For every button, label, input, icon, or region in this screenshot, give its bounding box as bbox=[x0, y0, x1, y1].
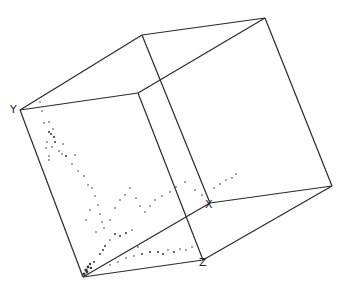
edge-z-backright bbox=[203, 186, 332, 260]
axis-label-y: Y bbox=[9, 103, 17, 116]
edge-backtopleft-x bbox=[142, 35, 210, 203]
edge-origin-y bbox=[20, 110, 83, 277]
cube-scatter-diagram: Y X Z bbox=[0, 0, 344, 290]
edge-backtopleft-backtopright bbox=[142, 18, 265, 35]
edge-backtopright-backright bbox=[265, 18, 332, 186]
scatter-points bbox=[39, 101, 237, 275]
edge-y-fronttopmid bbox=[20, 93, 138, 110]
axis-labels: Y X Z bbox=[9, 103, 213, 269]
edge-origin-x bbox=[83, 203, 210, 277]
edge-fronttopmid-z bbox=[138, 93, 203, 260]
axis-label-z: Z bbox=[199, 256, 207, 269]
edge-origin-z bbox=[83, 260, 203, 277]
edge-fronttopmid-backtopright bbox=[138, 18, 265, 93]
edge-y-backtopleft bbox=[20, 35, 142, 110]
edge-x-backright bbox=[210, 186, 332, 203]
cube-edges bbox=[20, 18, 332, 277]
axis-label-x: X bbox=[205, 198, 213, 211]
